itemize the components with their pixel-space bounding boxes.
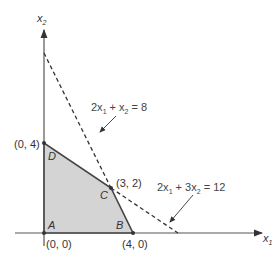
x2-axis-label: x2 <box>36 12 47 26</box>
vertex-d-coord: (0, 4) <box>14 138 40 150</box>
vertex-c-dot <box>109 186 113 190</box>
lp-diagram: x1 x2 A B C D (0, 0) (4, 0) (3, 2) (0, 4… <box>0 0 273 259</box>
x1-axis-label: x1 <box>262 232 273 246</box>
constraint-2-label: 2x1 + 3x2 = 12 <box>157 181 225 195</box>
vertex-a-label: A <box>47 219 55 231</box>
vertex-d-dot <box>42 141 46 145</box>
vertex-c-coord: (3, 2) <box>116 177 142 189</box>
vertex-b-label: B <box>116 219 123 231</box>
vertex-c-label: C <box>100 189 108 201</box>
vertex-b-dot <box>131 231 135 235</box>
vertex-d-label: D <box>48 150 56 162</box>
constraint-1-label: 2x1 + x2 = 8 <box>91 101 147 115</box>
vertex-a-dot <box>42 231 46 235</box>
constraint-1-pointer <box>100 116 116 132</box>
vertex-a-coord: (0, 0) <box>46 238 72 250</box>
constraint-2-pointer <box>170 195 193 222</box>
vertex-b-coord: (4, 0) <box>122 238 148 250</box>
